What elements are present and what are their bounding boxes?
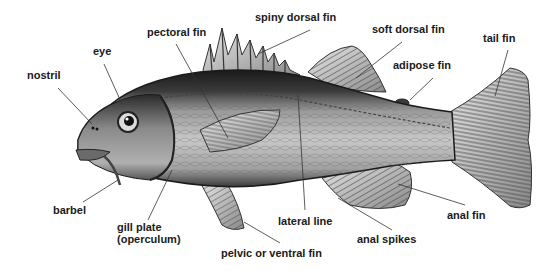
spiny-dorsal-fin [203,28,300,75]
pelvic-fin [200,180,244,229]
label-spiny-dorsal-fin: spiny dorsal fin [255,11,336,23]
fish-head [76,94,174,185]
label-pelvic-fin: pelvic or ventral fin [221,247,322,259]
label-lateral-line: lateral line [278,215,332,227]
label-soft-dorsal-fin: soft dorsal fin [372,23,445,35]
label-anal-spikes: anal spikes [357,233,416,245]
fish-illustration [0,0,554,271]
label-tail-fin: tail fin [483,32,515,44]
label-nostril: nostril [27,69,61,81]
label-barbel: barbel [53,204,86,216]
label-eye: eye [93,45,111,57]
fish-anatomy-diagram: nostril eye pectoral fin spiny dorsal fi… [0,0,554,271]
label-gill-plate: gill plate (operculum) [117,221,181,245]
label-adipose-fin: adipose fin [393,59,451,71]
tail-fin [450,68,532,208]
label-anal-fin: anal fin [447,209,486,221]
label-pectoral-fin: pectoral fin [147,26,206,38]
